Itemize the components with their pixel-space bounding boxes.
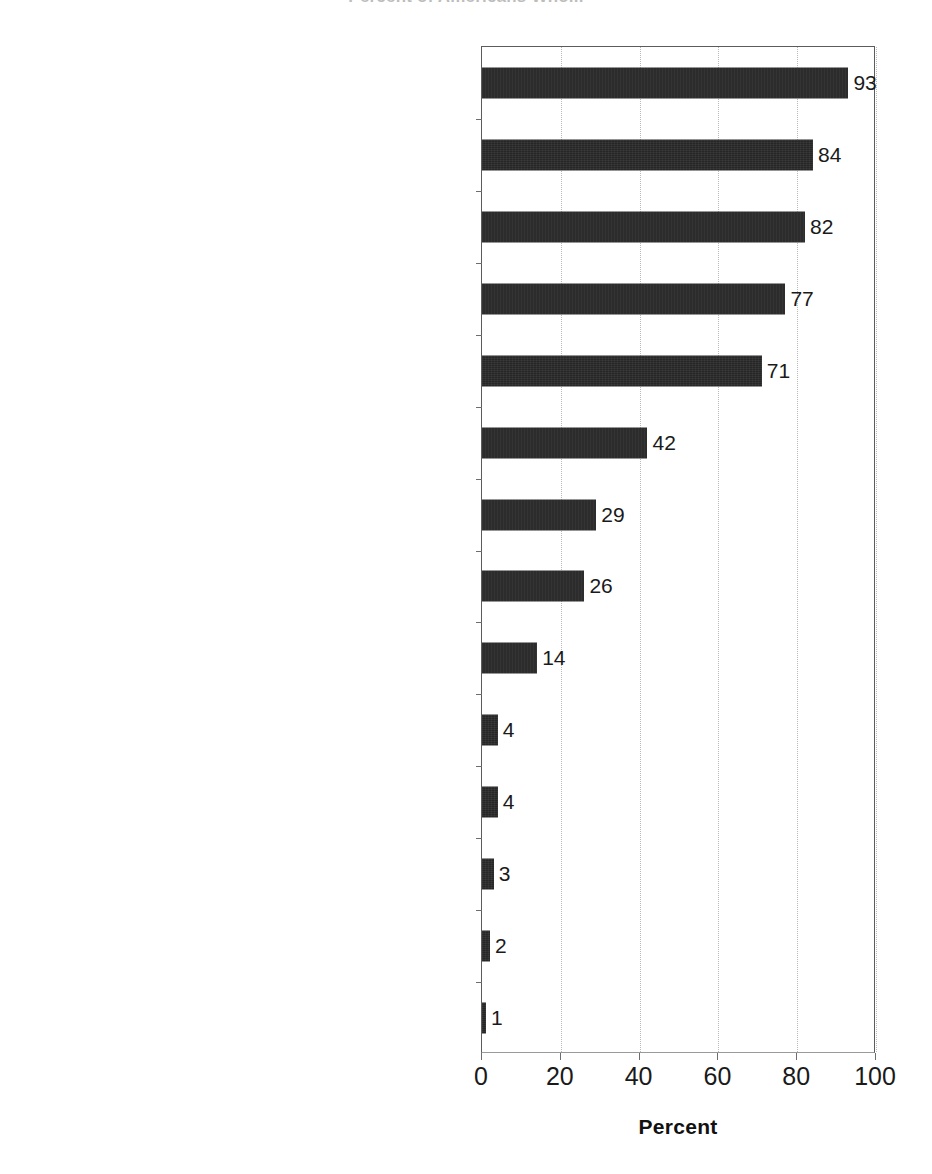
bar-chart: Percent of Americans Who... 93Eat meat84…: [0, 0, 932, 1174]
bar: [482, 283, 785, 314]
bar-value-label: 26: [584, 574, 612, 598]
bar-value-label: 82: [805, 215, 833, 239]
bar-row: 84Approve of hunting for the meat: [482, 119, 874, 191]
bar: [482, 859, 494, 890]
bar-row: 4Think animals can be used by humans reg…: [482, 766, 874, 838]
x-axis-tick-0: [481, 1053, 482, 1060]
bar-row: 4Do not eat meat or poultry: [482, 694, 874, 766]
bar: [482, 931, 490, 962]
bar: [482, 499, 596, 530]
y-axis-tick: [476, 622, 482, 623]
bar-row: 14Think animals have rights like humans …: [482, 622, 874, 694]
y-axis-tick: [476, 910, 482, 911]
y-axis-tick: [476, 335, 482, 336]
y-axis-tick: [476, 263, 482, 264]
bar-row: 29Appprove of hunting for a trophy: [482, 479, 874, 551]
bar: [482, 787, 498, 818]
bar-row: 2Do not eat meat OR wear leather: [482, 910, 874, 982]
bar: [482, 427, 647, 458]
bar-value-label: 3: [494, 862, 511, 886]
y-axis-tick: [476, 407, 482, 408]
bar-value-label: 71: [762, 359, 790, 383]
bar-value-label: 14: [537, 646, 565, 670]
bar-value-label: 84: [813, 143, 841, 167]
x-axis-tick-label: 40: [604, 1062, 674, 1091]
y-axis-tick: [476, 694, 482, 695]
y-axis-tick: [476, 479, 482, 480]
x-axis-tick-60: [717, 1053, 718, 1060]
bar-row: 1Self-identify as animal rights proponen…: [482, 982, 874, 1054]
bar-value-label: 1: [486, 1006, 503, 1030]
x-axis-tick-label: 20: [525, 1062, 595, 1091]
bar: [482, 67, 848, 98]
x-axis-title: Percent: [481, 1115, 875, 1139]
bar: [482, 211, 805, 242]
bar-value-label: 2: [490, 934, 507, 958]
y-axis-tick: [476, 766, 482, 767]
x-axis-tick-label: 80: [761, 1062, 831, 1091]
y-axis-tick: [476, 551, 482, 552]
bar-value-label: 42: [647, 431, 675, 455]
bar-row: 77Think it is acceptable to use animals …: [482, 263, 874, 335]
bar: [482, 571, 584, 602]
x-axis-tick-40: [639, 1053, 640, 1060]
bar: [482, 643, 537, 674]
bar-value-label: 77: [785, 287, 813, 311]
x-axis-tick-label: 0: [446, 1062, 516, 1091]
y-axis-tick: [476, 982, 482, 983]
y-axis-tick: [476, 191, 482, 192]
bar-row: 3Think all animal use should be banned: [482, 838, 874, 910]
x-axis-tick-100: [875, 1053, 876, 1060]
bar: [482, 715, 498, 746]
bar-row: 93Eat meat: [482, 47, 874, 119]
bar: [482, 139, 813, 170]
bar-value-label: 29: [596, 503, 624, 527]
x-axis-tick-label: 100: [840, 1062, 910, 1091]
y-axis-tick: [476, 119, 482, 120]
bar-row: 42Think it is acceptable to use animals …: [482, 407, 874, 479]
x-axis-tick-20: [560, 1053, 561, 1060]
bar: [482, 355, 762, 386]
x-axis-tick-label: 60: [682, 1062, 752, 1091]
bar-row: 82Think animals can be used by humans, a…: [482, 191, 874, 263]
bar-value-label: 4: [498, 718, 515, 742]
y-axis-tick: [476, 838, 482, 839]
bar-row: 71Wear leather shoes, gloves, or other c…: [482, 335, 874, 407]
x-axis-tick-80: [796, 1053, 797, 1060]
plot-area: 93Eat meat84Approve of hunting for the m…: [481, 46, 875, 1053]
bar-row: 26Do not wear leather: [482, 551, 874, 623]
bar-value-label: 93: [848, 71, 876, 95]
chart-title: Percent of Americans Who...: [0, 0, 932, 7]
bar-value-label: 4: [498, 790, 515, 814]
gridline-100: [876, 47, 877, 1052]
